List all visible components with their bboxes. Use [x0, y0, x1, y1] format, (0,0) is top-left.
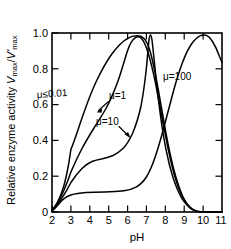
- x-tick-label-6: 6: [125, 214, 131, 226]
- curve-labels: μ≤0.01 μ=1 μ=10 μ=100: [36, 71, 191, 127]
- y-tick-labels: 0 0.2 0.4 0.6 0.8 1.0: [33, 27, 48, 217]
- y-tick-label-1p0: 1.0: [33, 27, 48, 39]
- x-axis-title: pH: [130, 231, 145, 243]
- plot-canvas: 2 3 4 5 6 7 8 9 10 11 0 0.2 0.4 0.6 0.8 …: [0, 0, 231, 249]
- x-tick-label-9: 9: [181, 214, 187, 226]
- x-tick-label-3: 3: [68, 214, 74, 226]
- y-axis-title-lead: Relative enzyme activity: [5, 84, 17, 205]
- x-tick-label-10: 10: [197, 214, 209, 226]
- y-axis-title-v1-sub: max: [10, 62, 19, 77]
- x-tick-label-5: 5: [106, 214, 112, 226]
- x-axis-ticks: [52, 33, 203, 212]
- x-tick-label-8: 8: [162, 214, 168, 226]
- y-tick-label-0p8: 0.8: [33, 63, 48, 75]
- x-tick-label-2: 2: [49, 214, 55, 226]
- y-tick-label-0p2: 0.2: [33, 170, 48, 182]
- x-tick-label-11: 11: [215, 214, 226, 226]
- label-mu-10: μ=10: [96, 116, 119, 127]
- svg-text:Relative enzyme activity Vmax/: Relative enzyme activity Vmax/V'max: [5, 35, 19, 205]
- y-tick-label-0p6: 0.6: [33, 98, 48, 110]
- label-mu-100: μ=100: [163, 71, 192, 82]
- label-mu-le-0p01: μ≤0.01: [36, 87, 68, 100]
- y-tick-label-0: 0: [42, 206, 48, 218]
- enzyme-activity-ph-figure: 2 3 4 5 6 7 8 9 10 11 0 0.2 0.4 0.6 0.8 …: [0, 0, 231, 249]
- curves-group: [52, 35, 222, 212]
- x-tick-label-7: 7: [143, 214, 149, 226]
- label-mu-1: μ=1: [109, 90, 127, 101]
- y-axis-title-v2-sub: max: [10, 35, 19, 50]
- curve-mu-10: [52, 35, 222, 212]
- x-tick-label-4: 4: [87, 214, 93, 226]
- x-tick-labels: 2 3 4 5 6 7 8 9 10 11: [49, 214, 227, 226]
- curve-mu-le-0p01: [52, 36, 222, 212]
- y-axis-title: Relative enzyme activity Vmax/V'max: [5, 35, 19, 205]
- y-tick-label-0p4: 0.4: [33, 134, 48, 146]
